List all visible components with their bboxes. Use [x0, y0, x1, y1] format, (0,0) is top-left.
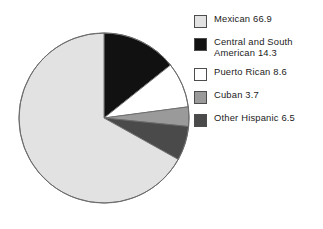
legend-item-central-and-south-american[interactable]: Central and South American 14.3: [194, 37, 323, 58]
legend-item-other-hispanic[interactable]: Other Hispanic 6.5: [194, 113, 323, 127]
legend-item-puerto-rican[interactable]: Puerto Rican 8.6: [194, 67, 323, 81]
pie-chart-figure: Mexican 66.9 Central and South American …: [0, 0, 323, 229]
legend-swatch-puerto-rican: [194, 68, 207, 81]
legend-label-puerto-rican: Puerto Rican 8.6: [214, 67, 287, 78]
legend-swatch-cuban: [194, 91, 207, 104]
legend-swatch-central-and-south-american: [194, 38, 207, 51]
pie-plot-area: [0, 0, 200, 229]
legend-item-mexican[interactable]: Mexican 66.9: [194, 14, 323, 28]
legend-label-cuban: Cuban 3.7: [214, 90, 259, 101]
legend-label-central-and-south-american: Central and South American 14.3: [214, 37, 293, 58]
legend-swatch-other-hispanic: [194, 114, 207, 127]
legend-label-other-hispanic: Other Hispanic 6.5: [214, 113, 295, 124]
legend-item-cuban[interactable]: Cuban 3.7: [194, 90, 323, 104]
chart-legend: Mexican 66.9 Central and South American …: [194, 14, 323, 136]
legend-swatch-mexican: [194, 15, 207, 28]
pie-chart-svg: [0, 0, 200, 229]
legend-label-mexican: Mexican 66.9: [214, 14, 272, 25]
